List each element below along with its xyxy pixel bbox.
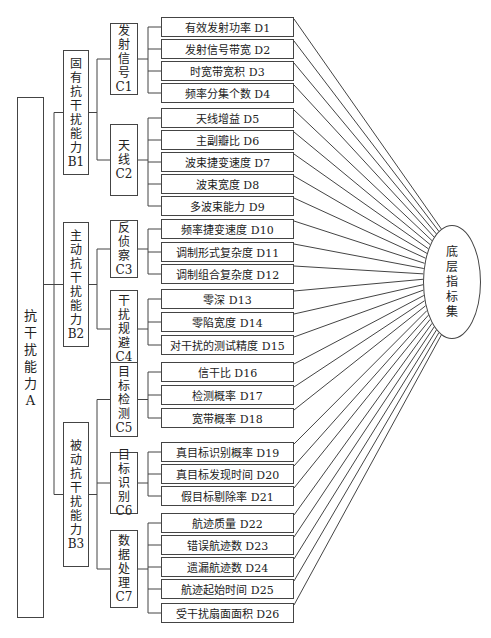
node-label-char: 反 bbox=[118, 221, 130, 235]
node-label-char: 抗 bbox=[70, 257, 82, 271]
node-label-char: 抗 bbox=[70, 85, 82, 99]
indicator-d18: 宽带概率 D18 bbox=[161, 408, 294, 428]
node-c7: 数据处理C7 bbox=[110, 530, 138, 608]
connector-line bbox=[294, 266, 423, 274]
node-label-char: 扰 bbox=[70, 285, 82, 299]
indicator-d1: 有效发射功率 D1 bbox=[161, 17, 294, 37]
node-label-char: C7 bbox=[116, 590, 133, 604]
indicator-d24: 遗漏航迹数 D24 bbox=[161, 557, 294, 577]
indicator-label: 航迹质量 D22 bbox=[192, 515, 262, 531]
indicator-d14: 零陷宽度 D14 bbox=[161, 312, 294, 332]
node-label-char: 线 bbox=[118, 153, 130, 167]
indicator-d26: 受干扰扇面面积 D26 bbox=[161, 603, 294, 623]
indicator-d13: 零深 D13 bbox=[161, 289, 294, 309]
node-label-char: 识 bbox=[118, 476, 130, 490]
indicator-label: 零陷宽度 D14 bbox=[192, 314, 262, 330]
indicator-label: 频率分集个数 D4 bbox=[185, 85, 270, 101]
node-label-char: 测 bbox=[118, 407, 130, 421]
indicator-label: 对干扰的测试精度 D15 bbox=[170, 337, 284, 353]
indicator-d10: 频率捷变速度 D10 bbox=[161, 219, 294, 239]
node-label-char: 抗 bbox=[70, 467, 82, 481]
node-label-char: B2 bbox=[68, 327, 84, 341]
indicator-d20: 真目标发现时间 D20 bbox=[161, 464, 294, 484]
indicator-label: 调制形式复杂度 D11 bbox=[176, 244, 279, 260]
node-label-char: C5 bbox=[116, 421, 133, 435]
node-label-char: 有 bbox=[70, 71, 82, 85]
node-label-char: 数 bbox=[118, 534, 130, 548]
indicator-d8: 波束宽度 D8 bbox=[161, 174, 294, 194]
node-c4: 干扰规避C4 bbox=[110, 290, 138, 368]
node-label-char: 集 bbox=[446, 305, 458, 320]
node-label-char: 能 bbox=[70, 299, 82, 313]
node-label-char: 标 bbox=[118, 462, 130, 476]
indicator-label: 真目标发现时间 D20 bbox=[176, 466, 279, 482]
indicator-label: 遗漏航迹数 D24 bbox=[187, 559, 268, 575]
node-label-char: 别 bbox=[118, 490, 130, 504]
node-label-char: 扰 bbox=[70, 495, 82, 509]
indicator-d25: 航迹起始时间 D25 bbox=[161, 579, 294, 599]
node-label-char: 干 bbox=[70, 271, 82, 285]
node-label-char: 检 bbox=[118, 393, 130, 407]
indicator-label: 波束宽度 D8 bbox=[196, 176, 259, 192]
indicator-label: 时宽带宽积 D3 bbox=[190, 63, 264, 79]
indicator-d3: 时宽带宽积 D3 bbox=[161, 61, 294, 81]
indicator-label: 调制组合复杂度 D12 bbox=[176, 266, 279, 282]
indicator-label: 发射信号带宽 D2 bbox=[185, 41, 270, 57]
root-node-anti-jamming-capability: 抗干扰能力A bbox=[17, 97, 44, 618]
connector-line bbox=[294, 19, 441, 229]
indicator-d21: 假目标剔除率 D21 bbox=[161, 486, 294, 506]
node-label-char: 能 bbox=[70, 127, 82, 141]
indicator-d11: 调制形式复杂度 D11 bbox=[161, 242, 294, 262]
connector-line bbox=[294, 323, 432, 515]
node-label-char: 层 bbox=[446, 260, 458, 275]
node-label-char: 扰 bbox=[24, 341, 37, 358]
connector-line bbox=[294, 154, 428, 249]
node-label-char: 信 bbox=[118, 52, 130, 66]
node-label-char: 底 bbox=[446, 245, 458, 260]
node-label-char: A bbox=[26, 392, 35, 409]
indicator-label: 宽带概率 D18 bbox=[192, 410, 262, 426]
node-b1: 固有抗干扰能力B1 bbox=[63, 50, 89, 175]
indicator-label: 零深 D13 bbox=[203, 291, 251, 307]
connector-line bbox=[294, 327, 434, 537]
node-label-char: C1 bbox=[116, 80, 133, 94]
indicator-label: 航迹起始时间 D25 bbox=[181, 581, 273, 597]
indicator-label: 假目标剔除率 D21 bbox=[181, 488, 273, 504]
indicator-d23: 错误航迹数 D23 bbox=[161, 535, 294, 555]
bottom-indicator-set-node: 底层指标集 bbox=[423, 225, 481, 339]
node-label-char: 干 bbox=[24, 324, 37, 341]
indicator-label: 多波束能力 D9 bbox=[190, 198, 264, 214]
node-label-char: 标 bbox=[446, 290, 458, 305]
node-label-char: 干 bbox=[70, 99, 82, 113]
node-label-char: C6 bbox=[116, 504, 133, 518]
indicator-label: 频率捷变速度 D10 bbox=[181, 221, 273, 237]
node-label-char: 固 bbox=[70, 57, 82, 71]
node-label-char: B1 bbox=[68, 155, 84, 169]
indicator-label: 信干比 D16 bbox=[198, 364, 257, 380]
node-c3: 反侦察C3 bbox=[110, 220, 138, 278]
node-label-char: 射 bbox=[118, 38, 130, 52]
connector-line bbox=[294, 315, 428, 466]
node-label-char: 能 bbox=[70, 509, 82, 523]
node-label-char: 目 bbox=[118, 448, 130, 462]
indicator-label: 天线增益 D5 bbox=[196, 110, 259, 126]
node-label-char: C3 bbox=[116, 263, 133, 277]
node-label-char: 扰 bbox=[70, 113, 82, 127]
node-label-char: 力 bbox=[24, 375, 37, 392]
node-label-char: B3 bbox=[68, 537, 84, 551]
connector-line bbox=[294, 85, 434, 237]
node-label-char: 号 bbox=[118, 66, 130, 80]
node-label-char: 被 bbox=[70, 439, 82, 453]
node-label-char: 干 bbox=[70, 481, 82, 495]
connector-line bbox=[294, 330, 436, 559]
indicator-d12: 调制组合复杂度 D12 bbox=[161, 264, 294, 284]
indicator-label: 主副瓣比 D6 bbox=[196, 132, 259, 148]
connector-line bbox=[294, 333, 439, 581]
node-label-char: 侦 bbox=[118, 235, 130, 249]
indicator-d7: 波束捷变速度 D7 bbox=[161, 152, 294, 172]
node-label-char: 目 bbox=[118, 365, 130, 379]
node-label-char: 扰 bbox=[118, 308, 130, 322]
node-label-char: 主 bbox=[70, 229, 82, 243]
node-b3: 被动抗干扰能力B3 bbox=[63, 422, 89, 567]
node-label-char: 发 bbox=[118, 24, 130, 38]
